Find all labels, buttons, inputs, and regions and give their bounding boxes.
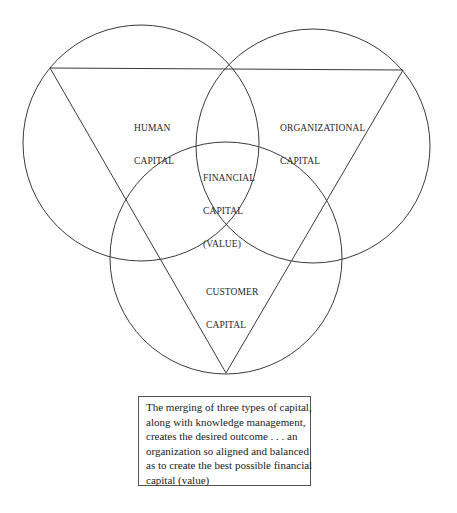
human-capital-label: HUMAN CAPITAL <box>134 101 174 178</box>
caption-line: along with knowledge management, <box>146 415 305 430</box>
financial-capital-label-line1: FINANCIAL <box>203 173 255 184</box>
financial-capital-label: FINANCIAL CAPITAL (VALUE) <box>203 151 255 261</box>
caption-line: as to create the best possible financial <box>146 458 305 473</box>
human-capital-label-line2: CAPITAL <box>134 156 174 167</box>
caption-box: The merging of three types of capital, a… <box>138 396 311 486</box>
financial-capital-label-line3: (VALUE) <box>203 239 255 250</box>
organizational-capital-label-line2: CAPITAL <box>280 156 365 167</box>
caption-line: organization so aligned and balanced <box>146 444 305 459</box>
customer-capital-label: CUSTOMER CAPITAL <box>206 265 258 342</box>
financial-capital-label-line2: CAPITAL <box>203 206 255 217</box>
organizational-capital-label-line1: ORGANIZATIONAL <box>280 123 365 134</box>
customer-capital-label-line1: CUSTOMER <box>206 287 258 298</box>
customer-capital-label-line2: CAPITAL <box>206 320 258 331</box>
human-capital-label-line1: HUMAN <box>134 123 174 134</box>
caption-line: capital (value) <box>146 473 305 488</box>
caption-line: The merging of three types of capital, <box>146 400 305 415</box>
organizational-capital-label: ORGANIZATIONAL CAPITAL <box>280 101 365 178</box>
caption-line: creates the desired outcome . . . an <box>146 429 305 444</box>
